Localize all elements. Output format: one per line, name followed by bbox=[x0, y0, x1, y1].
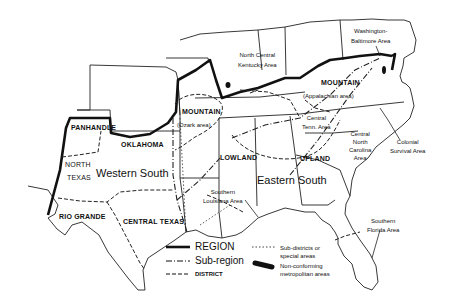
label-lowland: LOWLAND bbox=[220, 154, 257, 161]
label-southern-louisiana: Southern Louisiana Area bbox=[203, 189, 243, 204]
label-oklahoma: OKLAHOMA bbox=[121, 141, 164, 148]
legend-subregion-label: Sub-region bbox=[195, 256, 244, 266]
region-label-eastern-south: Eastern South bbox=[257, 175, 327, 186]
label-north: NORTH bbox=[65, 161, 91, 168]
legend-metro-label: Non-conforming metropolitan areas bbox=[280, 262, 344, 278]
legend-district-label: DISTRICT bbox=[195, 271, 223, 277]
legend-region-label: REGION bbox=[195, 242, 234, 252]
label-washington-baltimore: Washington- Baltimore Area bbox=[351, 28, 390, 44]
label-upland: UPLAND bbox=[300, 155, 330, 162]
label-texas: TEXAS bbox=[67, 174, 91, 181]
region-label-western-south: Western South bbox=[96, 168, 169, 179]
label-central-tenn: Central Tenn. Area bbox=[302, 115, 331, 130]
label-ozark-area: (Ozark area) bbox=[177, 122, 211, 128]
legend-subdistrict-label: Sub-districts or special areas bbox=[280, 244, 338, 260]
label-mountain-west: MOUNTAIN bbox=[182, 108, 221, 115]
label-appalachian-area: (Appalachian area) bbox=[303, 93, 354, 99]
label-mountain-east: MOUNTAIN bbox=[321, 79, 360, 86]
label-central-texas: CENTRAL TEXAS bbox=[123, 218, 184, 225]
label-central-north-carolina: Central North Carolina Area bbox=[349, 131, 371, 161]
label-north-central-kentucky: North Central Kentucky Area bbox=[238, 52, 277, 68]
label-southern-florida: Southern Florida Area bbox=[367, 218, 399, 233]
label-rio-grande: RIO GRANDE bbox=[59, 213, 106, 220]
label-panhandle: PANHANDLE bbox=[71, 124, 116, 131]
label-colonial-survival: Colonial Survival Area bbox=[390, 139, 425, 154]
